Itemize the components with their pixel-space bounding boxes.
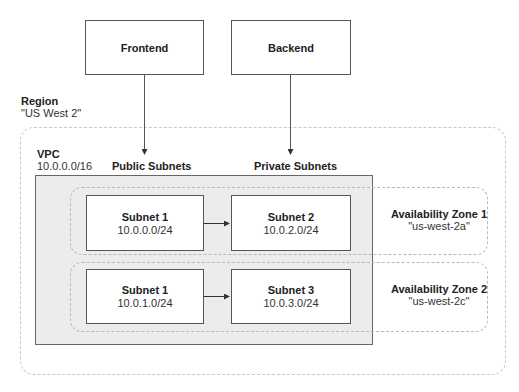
connector-layer <box>0 0 519 392</box>
